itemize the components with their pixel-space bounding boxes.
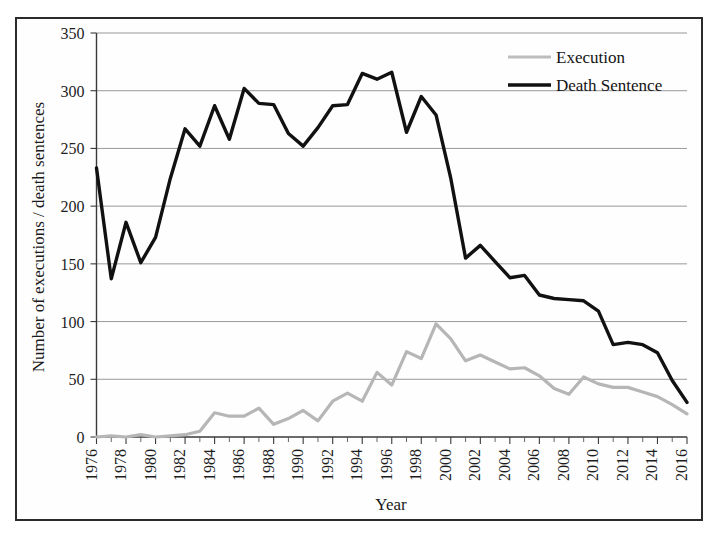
x-tick-label: 2006 (525, 449, 542, 481)
x-tick-label: 1984 (201, 449, 218, 481)
data-series-group (97, 72, 688, 437)
y-tick-label: 50 (69, 371, 85, 388)
x-tick-label: 1992 (319, 449, 336, 481)
legend-label-execution: Execution (556, 48, 625, 67)
x-tick-label: 1998 (407, 449, 424, 481)
x-tick-label: 2012 (614, 449, 631, 481)
series-line-execution (97, 324, 688, 437)
x-tick-label: 1996 (378, 449, 395, 481)
y-tick-label: 350 (61, 25, 85, 42)
line-chart: 050100150200250300350 197619781980198219… (0, 0, 719, 535)
y-tick-label: 150 (61, 256, 85, 273)
y-tick-labels-group: 050100150200250300350 (61, 25, 85, 446)
y-tick-marks-group (91, 33, 97, 437)
x-tick-label: 1982 (171, 449, 188, 481)
series-line-death-sentence (97, 72, 688, 402)
x-axis-title: Year (375, 495, 407, 514)
x-tick-label: 1986 (230, 449, 247, 481)
x-tick-label: 1980 (142, 449, 159, 481)
x-tick-label: 1994 (348, 449, 365, 481)
x-tick-label: 2008 (555, 449, 572, 481)
y-tick-label: 100 (61, 314, 85, 331)
x-tick-marks-group (97, 437, 688, 444)
x-tick-label: 2002 (466, 449, 483, 481)
x-tick-label: 2000 (437, 449, 454, 481)
x-tick-label: 1990 (289, 449, 306, 481)
x-tick-label: 2004 (496, 449, 513, 481)
x-tick-label: 2014 (643, 449, 660, 481)
legend-label-death-sentence: Death Sentence (556, 76, 662, 95)
x-tick-label: 1978 (112, 449, 129, 481)
legend: Execution Death Sentence (508, 48, 662, 95)
y-tick-label: 250 (61, 140, 85, 157)
x-tick-labels-group: 1976197819801982198419861988199019921994… (83, 449, 691, 481)
x-tick-label: 2010 (584, 449, 601, 481)
y-axis-title: Number of executions / death sentences (29, 102, 48, 373)
y-tick-label: 0 (77, 429, 85, 446)
x-tick-label: 1976 (83, 449, 100, 481)
y-tick-label: 200 (61, 198, 85, 215)
x-tick-label: 1988 (260, 449, 277, 481)
chart-figure: 050100150200250300350 197619781980198219… (0, 0, 719, 535)
x-tick-label: 2016 (673, 449, 690, 481)
y-tick-label: 300 (61, 83, 85, 100)
